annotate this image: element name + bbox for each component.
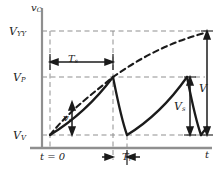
y-axis-label: vC	[31, 3, 41, 13]
x-axis-label: t	[205, 150, 209, 160]
Vs-arrow-down	[187, 127, 193, 135]
annotation-label-V-total: V	[199, 83, 207, 94]
V-arrow-down	[204, 127, 210, 135]
vs-small-arrow-up	[69, 102, 75, 110]
annotation-label-Vs: Vs	[174, 101, 185, 113]
time-guide-lines	[50, 31, 127, 160]
annotation-label-tr: Tr	[122, 152, 132, 162]
annotation-label-ts: Ts	[68, 54, 78, 64]
annotation-label-vs-small: vs	[63, 113, 72, 123]
waveform-figure: vC VYY VP VV Ts Tr vs Vs V t = 0 t	[0, 0, 219, 173]
level-label-vyy: VYY	[9, 26, 26, 38]
retrace-fall-1	[113, 77, 127, 135]
waveform-svg	[0, 0, 219, 173]
dimension-tr	[102, 150, 140, 165]
sweep-rise-1	[50, 77, 113, 135]
ts-arrow-right	[105, 59, 113, 65]
dimension-ts	[50, 54, 113, 70]
level-label-vp: VP	[13, 72, 26, 84]
V-arrow-up	[204, 31, 210, 39]
vs-small-arrow-down	[69, 127, 75, 135]
level-label-vv: VV	[13, 130, 26, 142]
axis-label-time-origin: t = 0	[40, 152, 65, 162]
tr-left-arrow	[105, 154, 113, 160]
ts-arrow-left	[50, 59, 58, 65]
